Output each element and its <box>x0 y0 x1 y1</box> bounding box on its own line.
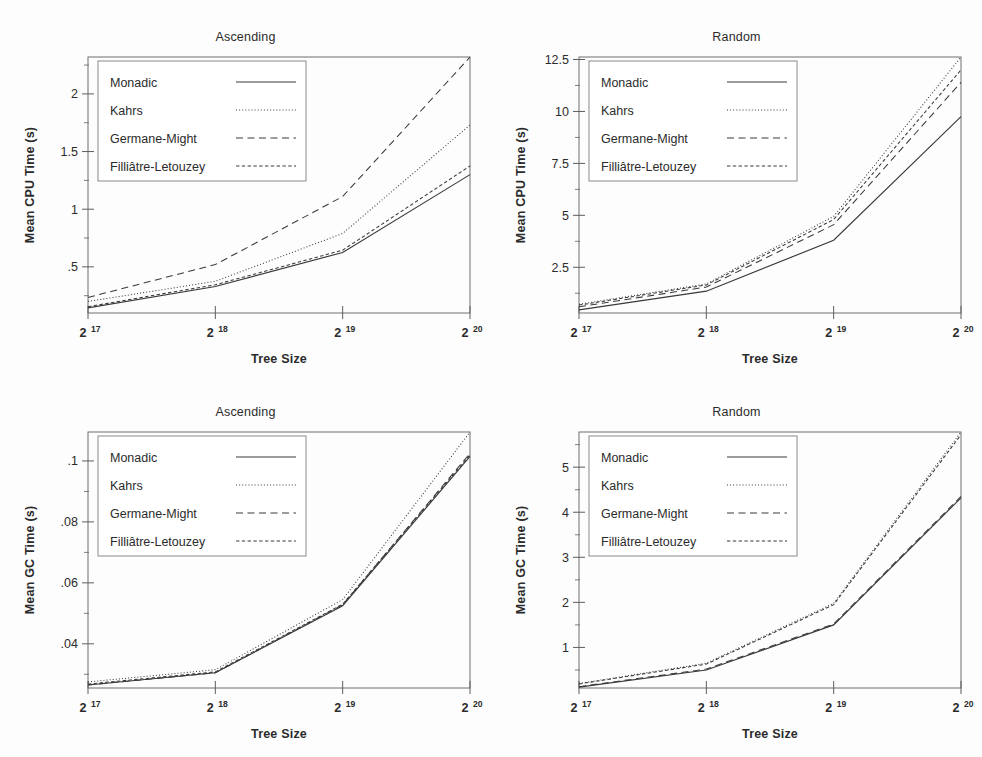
x-tick-label: 218 <box>698 699 719 715</box>
y-tick-label: 2 <box>71 87 78 101</box>
legend-item-label: Monadic <box>110 451 157 465</box>
x-tick-base: 2 <box>570 326 577 340</box>
series-line-monadic <box>88 175 470 308</box>
y-axis-title: Mean GC Time (s) <box>514 506 528 615</box>
x-axis-title: Tree Size <box>742 352 798 366</box>
y-tick-label: .1 <box>68 454 78 468</box>
legend-item-label: Filliâtre-Letouzey <box>110 160 206 174</box>
x-tick-label: 220 <box>461 324 482 340</box>
legend-item-label: Monadic <box>601 451 648 465</box>
legend-item-label: Monadic <box>601 76 648 90</box>
legend-item-label: Filliâtre-Letouzey <box>601 160 697 174</box>
legend-item-label: Filliâtre-Letouzey <box>110 535 206 549</box>
chart-panel-cpu-ascending: Ascending21.51.5Mean CPU Time (s)2172182… <box>0 30 491 378</box>
x-axis-title: Tree Size <box>742 727 798 741</box>
x-tick-exponent: 18 <box>709 324 719 334</box>
chart-panel-cpu-random: Random12.5107.552.5Mean CPU Time (s)2172… <box>491 30 982 378</box>
x-tick-exponent: 18 <box>218 324 228 334</box>
chart-svg: 12.5107.552.5Mean CPU Time (s)2172182192… <box>491 30 982 360</box>
panel-title: Random <box>491 405 982 419</box>
y-tick-label: 12.5 <box>545 53 569 67</box>
legend-item-label: Germane-Might <box>601 507 688 521</box>
x-tick-label: 220 <box>461 699 482 715</box>
x-tick-exponent: 17 <box>582 324 592 334</box>
y-tick-label: 5 <box>562 461 569 475</box>
x-tick-label: 218 <box>207 324 228 340</box>
legend-item-label: Kahrs <box>601 479 634 493</box>
y-tick-label: 2.5 <box>552 261 569 275</box>
x-tick-label: 220 <box>952 324 973 340</box>
y-tick-label: 7.5 <box>552 157 569 171</box>
x-tick-base: 2 <box>461 701 468 715</box>
y-tick-label: 1 <box>71 203 78 217</box>
x-tick-exponent: 20 <box>964 699 974 709</box>
x-tick-label: 217 <box>570 324 591 340</box>
y-tick-label: 4 <box>562 506 569 520</box>
x-tick-base: 2 <box>79 326 86 340</box>
legend: MonadicKahrsGermane-MightFilliâtre-Letou… <box>98 436 306 556</box>
x-tick-label: 218 <box>698 324 719 340</box>
x-tick-base: 2 <box>79 701 86 715</box>
x-tick-base: 2 <box>207 326 214 340</box>
chart-panel-gc-ascending: Ascending.1.08.06.04Mean GC Time (s)2172… <box>0 405 491 753</box>
x-tick-base: 2 <box>334 326 341 340</box>
panel-title: Ascending <box>0 30 491 44</box>
x-tick-label: 219 <box>334 699 355 715</box>
x-tick-exponent: 20 <box>473 324 483 334</box>
legend-item-label: Kahrs <box>110 479 143 493</box>
x-tick-base: 2 <box>952 701 959 715</box>
y-tick-label: 1.5 <box>61 145 78 159</box>
y-tick-label: 10 <box>555 105 569 119</box>
chart-svg: 21.51.5Mean CPU Time (s)217218219220Tree… <box>0 30 491 360</box>
figure-panel-grid: Ascending21.51.5Mean CPU Time (s)2172182… <box>0 0 982 757</box>
x-tick-label: 220 <box>952 699 973 715</box>
x-tick-exponent: 19 <box>837 324 847 334</box>
y-tick-label: 5 <box>562 209 569 223</box>
y-tick-label: 1 <box>562 641 569 655</box>
x-tick-exponent: 17 <box>91 324 101 334</box>
x-tick-base: 2 <box>207 701 214 715</box>
x-tick-exponent: 19 <box>346 699 356 709</box>
x-tick-exponent: 20 <box>964 324 974 334</box>
x-tick-base: 2 <box>825 326 832 340</box>
x-tick-exponent: 18 <box>218 699 228 709</box>
y-tick-label: 2 <box>562 596 569 610</box>
x-tick-label: 219 <box>825 699 846 715</box>
x-tick-base: 2 <box>698 701 705 715</box>
x-tick-exponent: 17 <box>91 699 101 709</box>
x-tick-label: 218 <box>207 699 228 715</box>
x-tick-exponent: 20 <box>473 699 483 709</box>
legend: MonadicKahrsGermane-MightFilliâtre-Letou… <box>98 61 306 181</box>
x-tick-label: 219 <box>334 324 355 340</box>
legend-item-label: Germane-Might <box>601 132 688 146</box>
y-tick-label: 3 <box>562 551 569 565</box>
y-tick-label: .08 <box>61 515 78 529</box>
legend-item-label: Filliâtre-Letouzey <box>601 535 697 549</box>
x-tick-base: 2 <box>461 326 468 340</box>
y-axis-title: Mean CPU Time (s) <box>514 127 528 243</box>
x-tick-base: 2 <box>570 701 577 715</box>
x-tick-exponent: 19 <box>346 324 356 334</box>
x-tick-exponent: 17 <box>582 699 592 709</box>
legend-item-label: Kahrs <box>110 104 143 118</box>
x-tick-base: 2 <box>334 701 341 715</box>
x-tick-base: 2 <box>952 326 959 340</box>
x-tick-label: 217 <box>570 699 591 715</box>
y-tick-label: .5 <box>68 260 78 274</box>
x-tick-base: 2 <box>698 326 705 340</box>
x-axis-title: Tree Size <box>251 352 307 366</box>
chart-svg: .1.08.06.04Mean GC Time (s)217218219220T… <box>0 405 491 735</box>
x-tick-label: 217 <box>79 324 100 340</box>
legend: MonadicKahrsGermane-MightFilliâtre-Letou… <box>589 436 797 556</box>
y-axis-title: Mean CPU Time (s) <box>23 127 37 243</box>
x-tick-label: 217 <box>79 699 100 715</box>
panel-title: Ascending <box>0 405 491 419</box>
x-tick-exponent: 19 <box>837 699 847 709</box>
panel-title: Random <box>491 30 982 44</box>
legend-item-label: Germane-Might <box>110 507 197 521</box>
series-line-filli-tre-letouzey <box>88 166 470 307</box>
legend-item-label: Kahrs <box>601 104 634 118</box>
legend-item-label: Germane-Might <box>110 132 197 146</box>
x-tick-base: 2 <box>825 701 832 715</box>
chart-panel-gc-random: Random54321Mean GC Time (s)217218219220T… <box>491 405 982 753</box>
